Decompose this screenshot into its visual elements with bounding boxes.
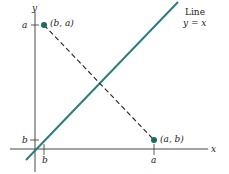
line-label: Line: [185, 7, 205, 17]
x-tick-b-label: b: [42, 155, 48, 165]
point-a-b-label: (a, b): [160, 134, 184, 144]
point-b-a-label: (b, a): [50, 18, 74, 28]
line-y-equals-x: [26, 2, 178, 160]
diagram-canvas: y x a b b a Line y = x (b, a) (a, b): [0, 0, 229, 174]
y-axis-label: y: [31, 3, 38, 13]
x-tick-a-label: a: [151, 155, 156, 165]
point-b-a: [41, 22, 47, 28]
y-tick-a-label: a: [22, 20, 27, 30]
line-equation-label: y = x: [182, 18, 206, 28]
point-a-b: [151, 137, 157, 143]
x-axis-label: x: [211, 144, 216, 154]
y-tick-b-label: b: [22, 135, 28, 145]
